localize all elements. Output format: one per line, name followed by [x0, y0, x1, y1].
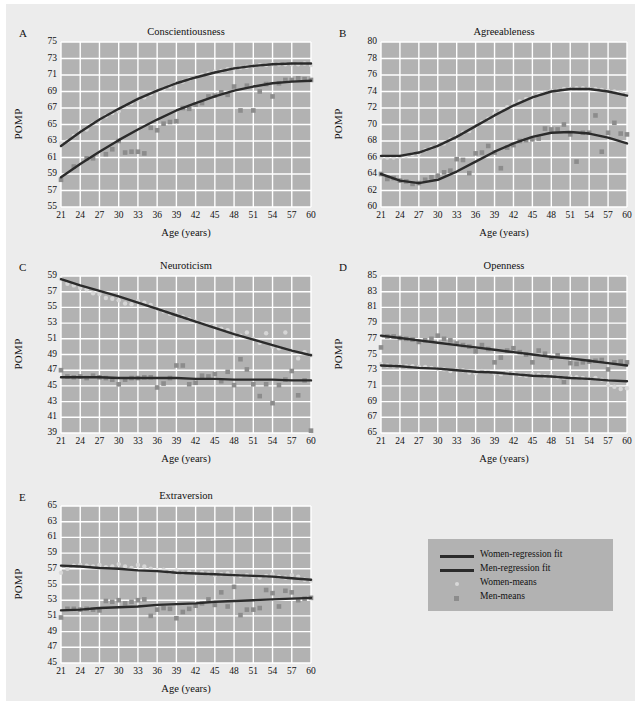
y-tick-label: 55: [27, 580, 57, 590]
gridlines-e: [61, 506, 311, 663]
y-tick-label: 53: [27, 595, 57, 605]
y-tick-label: 51: [27, 611, 57, 621]
legend-square-icon: [454, 596, 459, 601]
y-tick-label: 57: [27, 564, 57, 574]
y-tick-label: 63: [27, 517, 57, 527]
y-tick-label: 61: [27, 532, 57, 542]
legend-line-icon: [440, 555, 474, 558]
legend-circle-icon: [455, 582, 459, 586]
y-tick-label: 49: [27, 627, 57, 637]
legend-label: Women-regression fit: [480, 550, 562, 560]
y-tick-label: 47: [27, 642, 57, 652]
x-tick-label: 60: [299, 667, 323, 677]
y-tick-label: 59: [27, 548, 57, 558]
legend-label: Women-means: [480, 578, 537, 588]
chart-legend: Women-regression fitMen-regression fitWo…: [428, 539, 613, 611]
legend-label: Men-means: [480, 592, 525, 602]
legend-label: Men-regression fit: [480, 564, 550, 574]
figure-root: AConscientiousnessPOMPAge (years)5557596…: [0, 0, 641, 712]
legend-line-icon: [440, 569, 474, 572]
y-tick-label: 65: [27, 501, 57, 511]
